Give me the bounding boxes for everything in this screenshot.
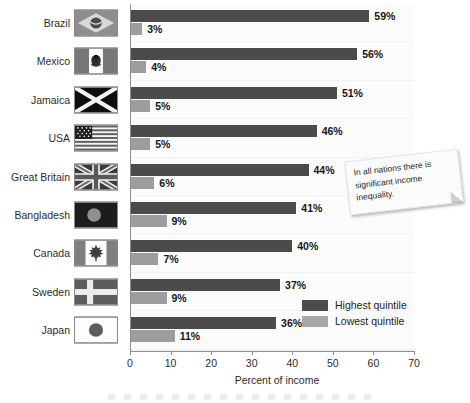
bar-lowest-quintile — [130, 330, 175, 342]
x-axis-tick — [252, 351, 253, 355]
category-label-sweden: Sweden — [32, 286, 70, 298]
footer-source-text-smudge — [108, 394, 380, 400]
bar-lowest-quintile — [130, 253, 158, 265]
x-axis-tick — [373, 351, 374, 355]
legend-swatch-highest-quintile — [302, 300, 328, 311]
x-axis-tick — [333, 351, 334, 355]
y-axis-line — [130, 4, 131, 352]
x-axis-line — [130, 351, 415, 352]
chart-legend: Highest quintile Lowest quintile — [302, 298, 407, 330]
flag-great-britain-icon — [74, 163, 118, 190]
category-label-bangladesh: Bangladesh — [15, 209, 70, 221]
category-label-canada: Canada — [33, 247, 70, 259]
x-axis-tick-label: 60 — [368, 357, 380, 369]
sticky-note-fold-corner — [450, 190, 463, 203]
bar-value-lowest-quintile: 9% — [172, 215, 187, 227]
bar-highest-quintile — [130, 87, 337, 99]
bar-value-highest-quintile: 40% — [297, 240, 318, 252]
bar-value-lowest-quintile: 11% — [180, 330, 200, 342]
x-axis-tick-label: 0 — [127, 357, 133, 369]
bar-lowest-quintile — [130, 138, 150, 150]
flag-sweden-icon — [74, 278, 118, 305]
flag-usa-icon — [74, 125, 118, 152]
x-axis-tick — [130, 351, 131, 355]
bar-value-highest-quintile: 37% — [285, 279, 306, 291]
bar-value-lowest-quintile: 6% — [159, 177, 174, 189]
bar-highest-quintile — [130, 48, 357, 60]
bar-lowest-quintile — [130, 292, 167, 304]
bar-value-highest-quintile: 51% — [342, 87, 363, 99]
bar-value-lowest-quintile: 5% — [155, 138, 170, 150]
category-label-usa: USA — [48, 132, 70, 144]
bar-value-highest-quintile: 56% — [362, 48, 383, 60]
x-axis-tick-label: 20 — [205, 357, 217, 369]
category-label-mexico: Mexico — [37, 55, 70, 67]
income-inequality-bar-chart: BrazilMexicoJamaicaUSAGreat BritainBangl… — [0, 0, 470, 403]
bar-highest-quintile — [130, 164, 309, 176]
legend-label-highest-quintile: Highest quintile — [335, 299, 407, 311]
flag-japan-icon — [74, 317, 118, 344]
bar-value-lowest-quintile: 5% — [155, 100, 170, 112]
bar-highest-quintile — [130, 279, 280, 291]
legend-label-lowest-quintile: Lowest quintile — [335, 315, 404, 327]
bar-value-highest-quintile: 44% — [314, 164, 335, 176]
x-axis-tick-label: 70 — [408, 357, 420, 369]
x-axis-tick — [292, 351, 293, 355]
bar-lowest-quintile — [130, 100, 150, 112]
x-axis-tick-label: 10 — [165, 357, 177, 369]
bar-highest-quintile — [130, 10, 369, 22]
flag-mexico-icon — [74, 48, 118, 75]
bar-value-highest-quintile: 41% — [301, 202, 322, 214]
category-label-great-britain: Great Britain — [11, 171, 70, 183]
legend-swatch-lowest-quintile — [302, 316, 328, 327]
category-label-jamaica: Jamaica — [31, 94, 70, 106]
bar-lowest-quintile — [130, 23, 142, 35]
bar-highest-quintile — [130, 125, 317, 137]
flag-brazil-icon — [74, 10, 118, 37]
x-axis-tick — [171, 351, 172, 355]
bar-value-lowest-quintile: 9% — [172, 292, 187, 304]
category-label-brazil: Brazil — [44, 17, 70, 29]
sticky-note-annotation: In all nations there is significant inco… — [344, 149, 463, 216]
bar-value-lowest-quintile: 7% — [163, 253, 178, 265]
bar-value-highest-quintile: 59% — [374, 10, 395, 22]
x-axis-tick — [211, 351, 212, 355]
x-axis-tick-label: 50 — [327, 357, 339, 369]
bar-value-highest-quintile: 36% — [281, 317, 302, 329]
flag-canada-icon — [74, 240, 118, 267]
bar-lowest-quintile — [130, 61, 146, 73]
bar-value-lowest-quintile: 4% — [151, 61, 166, 73]
bar-lowest-quintile — [130, 177, 154, 189]
flag-bangladesh-icon — [74, 202, 118, 229]
x-axis-tick-label: 40 — [286, 357, 298, 369]
legend-item-highest-quintile: Highest quintile — [302, 298, 407, 312]
flag-jamaica-icon — [74, 86, 118, 113]
legend-item-lowest-quintile: Lowest quintile — [302, 314, 407, 328]
x-axis-tick — [414, 351, 415, 355]
bar-value-lowest-quintile: 3% — [147, 23, 162, 35]
sticky-note-text: In all nations there is significant inco… — [353, 155, 457, 204]
bar-value-highest-quintile: 46% — [322, 125, 343, 137]
bar-highest-quintile — [130, 240, 292, 252]
bar-highest-quintile — [130, 202, 296, 214]
category-label-japan: Japan — [41, 324, 70, 336]
bar-highest-quintile — [130, 317, 276, 329]
x-axis-tick-label: 30 — [246, 357, 258, 369]
x-axis-title: Percent of income — [0, 374, 470, 386]
bar-lowest-quintile — [130, 215, 167, 227]
